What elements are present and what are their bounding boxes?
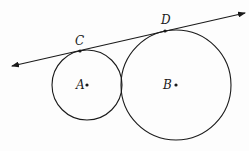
label-d: D (160, 13, 171, 27)
diagram-svg: C D A B (0, 0, 249, 151)
point-c-dot (78, 49, 81, 52)
point-d-dot (163, 29, 166, 32)
label-c: C (75, 34, 84, 48)
center-a-dot (85, 83, 88, 86)
label-a: A (75, 78, 85, 92)
geometry-diagram: C D A B (0, 0, 249, 151)
center-b-dot (174, 83, 177, 86)
label-b: B (162, 78, 172, 92)
